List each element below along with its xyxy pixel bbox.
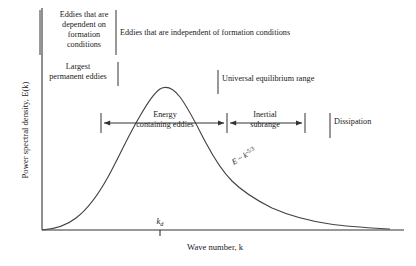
slope-law-exponent: -5/3: [244, 145, 255, 155]
energy-spectrum-figure: Eddies that are dependent on formation c…: [0, 0, 416, 266]
annotation-largest-permanent-eddies: Largest permanent eddies: [38, 62, 118, 82]
annotation-dissipation: Dissipation: [334, 117, 404, 127]
x-axis-label: Wave number, k: [150, 242, 280, 252]
annotation-dependent-eddies: Eddies that are dependent on formation c…: [46, 10, 122, 50]
annotation-universal-equilibrium-range: Universal equilibrium range: [222, 74, 357, 84]
annotation-energy-containing-eddies: Energy containing eddies: [112, 110, 218, 130]
annotation-independent-eddies: Eddies that are independent of formation…: [120, 28, 330, 38]
x-tick-label-sub: d: [160, 220, 163, 227]
annotation-inertial-subrange: Inertial subrange: [234, 110, 296, 130]
spectrum-curve: [42, 87, 390, 230]
x-tick-label-kd: kd: [146, 216, 174, 229]
y-axis-label: Power spectral density, E(k): [20, 40, 30, 220]
